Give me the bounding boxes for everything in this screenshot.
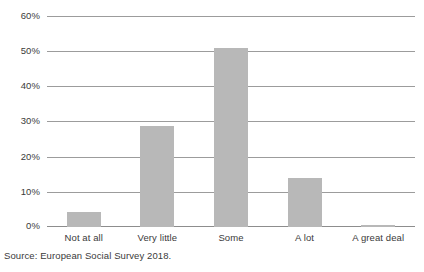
x-tick-label-not-at-all: Not at all xyxy=(65,231,104,244)
x-tick-label-a-lot: A lot xyxy=(295,231,314,244)
gridline-20 xyxy=(47,157,415,158)
y-tick-label-60: 60% xyxy=(0,11,40,21)
gridline-40 xyxy=(47,86,415,87)
y-tick-label-50: 50% xyxy=(0,46,40,56)
source-note: Source: European Social Survey 2018. xyxy=(4,250,171,262)
y-tick-label-10: 10% xyxy=(0,187,40,197)
x-tick-label-very-little: Very little xyxy=(138,231,178,244)
plot-area xyxy=(47,16,415,227)
gridline-10 xyxy=(47,192,415,193)
gridline-50 xyxy=(47,51,415,52)
x-tick-label-a-great-deal: A great deal xyxy=(352,231,404,244)
y-tick-label-40: 40% xyxy=(0,81,40,91)
y-tick-label-0: 0% xyxy=(0,221,40,231)
axis-baseline-0 xyxy=(47,226,415,227)
x-tick-label-some: Some xyxy=(218,231,243,244)
x-axis: Not at all Very little Some A lot A grea… xyxy=(47,231,415,247)
gridline-30 xyxy=(47,121,415,122)
y-tick-label-20: 20% xyxy=(0,152,40,162)
y-tick-label-30: 30% xyxy=(0,116,40,126)
gridline-60 xyxy=(47,16,415,17)
bar-chart-figure: 60% 50% 40% 30% 20% 10% 0% Not at all Ve… xyxy=(0,0,424,272)
